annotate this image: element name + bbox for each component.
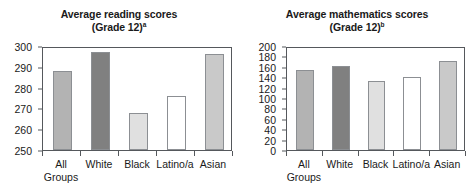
x-axis-label-black: Black: [363, 158, 389, 171]
y-axis-tick-label: 100: [258, 94, 276, 105]
y-axis-tick-mark: [282, 140, 286, 141]
x-axis-label-line: All: [298, 158, 310, 170]
panel-mathematics: Average mathematics scores (Grade 12)b 0…: [238, 0, 476, 195]
x-axis-label-line: Groups: [287, 171, 321, 184]
y-axis-tick-mark: [282, 67, 286, 68]
y-axis-tick-mark: [282, 130, 286, 131]
y-axis-tick-mark: [282, 119, 286, 120]
y-axis-tick-label: 160: [258, 63, 276, 74]
x-axis-label-line: Groups: [44, 171, 78, 184]
y-axis-tick-label: 80: [264, 104, 276, 115]
x-axis-label-asian: Asian: [434, 158, 460, 171]
y-axis-tick-mark: [282, 78, 286, 79]
y-axis-tick-label: 60: [264, 115, 276, 126]
y-axis-tick-label: 40: [264, 125, 276, 136]
bar-asian: [205, 54, 224, 150]
y-axis-tick-mark: [282, 99, 286, 100]
y-axis-tick-label: 140: [258, 73, 276, 84]
y-axis-tick-label: 180: [258, 52, 276, 63]
x-axis-label-line: Black: [363, 158, 389, 170]
bar-all-groups: [296, 70, 314, 150]
x-axis-tick-mark: [358, 151, 359, 156]
x-axis-label-white: White: [86, 158, 113, 171]
bar-white: [332, 66, 350, 150]
chart-title-mathematics: Average mathematics scores (Grade 12)b: [238, 8, 476, 34]
bar-black: [129, 113, 148, 150]
y-axis-tick-label: 300: [14, 42, 32, 53]
x-axis-label-white: White: [326, 158, 353, 171]
plot-area-mathematics: [286, 47, 465, 151]
y-axis-tick-label: 200: [258, 42, 276, 53]
x-axis-label-line: Latino/a: [393, 158, 430, 170]
chart-title-reading: Average reading scores (Grade 12)a: [0, 8, 238, 34]
x-axis-labels-reading: AllGroupsWhiteBlackLatino/aAsian: [42, 158, 232, 192]
y-axis-tick-mark: [282, 88, 286, 89]
y-axis-tick-label: 0: [270, 146, 276, 157]
y-axis-tick-mark: [38, 130, 42, 131]
x-axis-label-line: Asian: [434, 158, 460, 170]
y-axis-labels-mathematics: 020406080100120140160180200: [238, 47, 282, 151]
y-axis-tick-mark: [38, 151, 42, 152]
x-axis-tick-mark: [286, 151, 287, 156]
y-axis-tick-label: 290: [14, 63, 32, 74]
y-axis-tick-mark: [38, 88, 42, 89]
bar-black: [368, 81, 386, 150]
chart-title-line1: Average mathematics scores: [286, 8, 428, 20]
y-axis-tick-mark: [282, 109, 286, 110]
x-axis-label-all-groups: AllGroups: [44, 158, 78, 184]
y-axis-tick-mark: [282, 151, 286, 152]
x-axis-tick-mark: [42, 151, 43, 156]
bars-mathematics: [287, 48, 464, 150]
y-axis-tick-mark: [38, 109, 42, 110]
title-superscript: a: [143, 21, 147, 28]
panel-reading: Average reading scores (Grade 12)a 25026…: [0, 0, 238, 195]
x-axis-tick-mark: [80, 151, 81, 156]
x-axis-label-line: Asian: [200, 158, 226, 170]
x-axis-label-black: Black: [124, 158, 150, 171]
y-axis-tick-label: 20: [264, 135, 276, 146]
bar-asian: [439, 61, 457, 150]
y-axis-tick-mark: [282, 47, 286, 48]
x-axis-tick-mark: [465, 151, 466, 156]
plot-area-reading: [42, 47, 232, 151]
x-axis-label-line: White: [86, 158, 113, 170]
x-axis-label-line: White: [326, 158, 353, 170]
x-axis-label-line: Black: [124, 158, 150, 170]
x-axis-label-line: Latino/a: [156, 158, 193, 170]
two-panel-bar-chart-figure: Average reading scores (Grade 12)a 25026…: [0, 0, 476, 195]
x-axis-tick-mark: [118, 151, 119, 156]
x-axis-label-latino-a: Latino/a: [393, 158, 430, 171]
chart-title-line2: (Grade 12)a: [0, 21, 238, 34]
y-axis-tick-label: 280: [14, 83, 32, 94]
title-superscript: b: [381, 21, 385, 28]
bar-white: [91, 52, 110, 150]
bar-all-groups: [53, 71, 72, 150]
chart-title-line2: (Grade 12)b: [238, 21, 476, 34]
x-axis-label-line: All: [55, 158, 67, 170]
x-axis-tick-mark: [194, 151, 195, 156]
y-axis-tick-label: 120: [258, 83, 276, 94]
y-axis-tick-label: 250: [14, 146, 32, 157]
chart-title-line1: Average reading scores: [61, 8, 177, 20]
bars-reading: [43, 48, 231, 150]
x-axis-label-latino-a: Latino/a: [156, 158, 193, 171]
y-axis-tick-label: 270: [14, 104, 32, 115]
y-axis-tick-mark: [282, 57, 286, 58]
x-axis-tick-mark: [232, 151, 233, 156]
y-axis-labels-reading: 250260270280290300: [0, 47, 38, 151]
y-axis-tick-mark: [38, 67, 42, 68]
y-axis-tick-mark: [38, 47, 42, 48]
x-axis-tick-mark: [393, 151, 394, 156]
bar-latino-a: [167, 96, 186, 150]
x-axis-label-all-groups: AllGroups: [287, 158, 321, 184]
bar-latino-a: [403, 77, 421, 150]
x-axis-tick-mark: [429, 151, 430, 156]
y-axis-tick-label: 260: [14, 125, 32, 136]
x-axis-tick-mark: [156, 151, 157, 156]
x-axis-labels-mathematics: AllGroupsWhiteBlackLatino/aAsian: [286, 158, 465, 192]
x-axis-label-asian: Asian: [200, 158, 226, 171]
x-axis-tick-mark: [322, 151, 323, 156]
